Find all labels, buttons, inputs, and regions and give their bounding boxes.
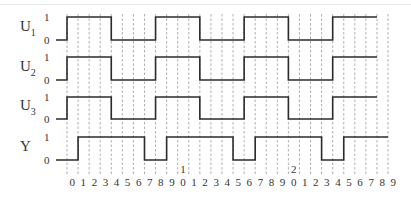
- tick-label: 6: [357, 176, 363, 188]
- tick-label: 0: [180, 176, 186, 188]
- tick-label: 3: [103, 176, 109, 188]
- tick-label: 8: [158, 176, 164, 188]
- signal-subscript: 2: [31, 67, 36, 78]
- low-level-label: 0: [44, 74, 50, 86]
- tick-label: 7: [258, 176, 264, 188]
- signal-labels: U110U210U310Y10: [20, 11, 50, 166]
- signal-name: U1: [20, 18, 36, 38]
- signal-name: U2: [20, 58, 36, 78]
- tick-label: 2: [313, 176, 319, 188]
- tick-label: 4: [224, 176, 230, 188]
- tick-label: 4: [335, 176, 341, 188]
- tick-label: 2: [92, 176, 98, 188]
- tick-label: 2: [202, 176, 208, 188]
- low-level-label: 0: [44, 113, 50, 125]
- tick-label: 8: [379, 176, 385, 188]
- tick-label: 7: [368, 176, 374, 188]
- waveform-u1: [56, 17, 377, 40]
- tick-label: 7: [147, 176, 153, 188]
- tick-label: 6: [136, 176, 142, 188]
- tick-label: 8: [269, 176, 275, 188]
- decade-marker: 1: [180, 163, 186, 175]
- decade-marker: 2: [291, 163, 297, 175]
- tick-label: 9: [280, 176, 286, 188]
- timing-diagram: U110U210U310Y10 012345678901234567890123…: [0, 0, 411, 198]
- tick-label: 3: [324, 176, 330, 188]
- tick-label: 1: [302, 176, 308, 188]
- tick-label: 6: [247, 176, 253, 188]
- tick-label: 4: [114, 176, 120, 188]
- waveform-u3: [56, 97, 377, 119]
- tick-labels: 01234567890123456789012345678912: [70, 163, 397, 188]
- waveform-u2: [56, 57, 377, 80]
- signal-name: U3: [20, 97, 36, 117]
- tick-label: 1: [81, 176, 87, 188]
- low-level-label: 0: [44, 154, 50, 166]
- grid-lines: [67, 14, 388, 176]
- low-level-label: 0: [44, 34, 50, 46]
- tick-label: 0: [70, 176, 76, 188]
- high-level-label: 1: [44, 51, 50, 63]
- tick-label: 9: [169, 176, 175, 188]
- tick-label: 5: [236, 176, 242, 188]
- signal-subscript: 3: [31, 106, 36, 117]
- signal-name: Y: [20, 138, 31, 154]
- tick-label: 1: [191, 176, 197, 188]
- high-level-label: 1: [44, 131, 50, 143]
- tick-label: 0: [291, 176, 297, 188]
- tick-label: 9: [391, 176, 397, 188]
- signal-subscript: 1: [31, 27, 36, 38]
- high-level-label: 1: [44, 91, 50, 103]
- tick-label: 5: [125, 176, 131, 188]
- tick-label: 5: [346, 176, 352, 188]
- tick-label: 3: [213, 176, 219, 188]
- high-level-label: 1: [44, 11, 50, 23]
